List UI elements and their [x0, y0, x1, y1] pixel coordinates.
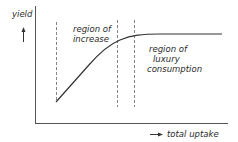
- svg-text:region of: region of: [73, 24, 113, 34]
- svg-text:increase: increase: [73, 34, 109, 44]
- y-axis-label: yield: [11, 9, 33, 19]
- svg-text:consumption: consumption: [147, 64, 202, 74]
- region-increase-label: region of increase: [73, 24, 113, 44]
- region-luxury-label: region of luxury consumption: [147, 44, 202, 74]
- x-axis-label: total uptake: [167, 129, 219, 139]
- svg-text:luxury: luxury: [153, 54, 181, 64]
- svg-text:region of: region of: [149, 44, 189, 54]
- up-arrow-icon: [22, 27, 26, 42]
- yield-diagram: yield region of increase region of luxur…: [0, 0, 238, 142]
- right-arrow-icon: [150, 133, 163, 137]
